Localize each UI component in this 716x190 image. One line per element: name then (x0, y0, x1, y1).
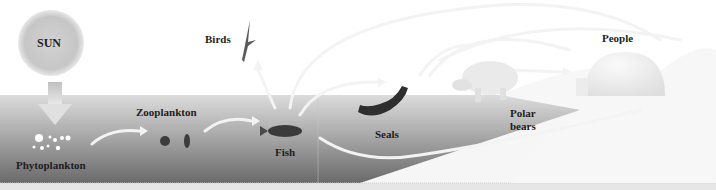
phytoplankton-label: Phytoplankton (16, 159, 86, 172)
bird-icon (242, 20, 256, 62)
sun-label: SUN (37, 37, 61, 50)
polar-bears-label-line1: Polar (510, 107, 536, 120)
igloo-icon (576, 52, 665, 96)
seals-label: Seals (375, 128, 399, 141)
zooplankton-label: Zooplankton (136, 106, 197, 119)
birds-label: Birds (205, 33, 231, 46)
food-chain-diagram: SUN Phytoplankton Zooplankton Fish Birds… (0, 0, 716, 190)
people-label: People (602, 32, 633, 45)
fish-label: Fish (275, 146, 295, 159)
polar-bears-label-line2: bears (510, 120, 536, 133)
